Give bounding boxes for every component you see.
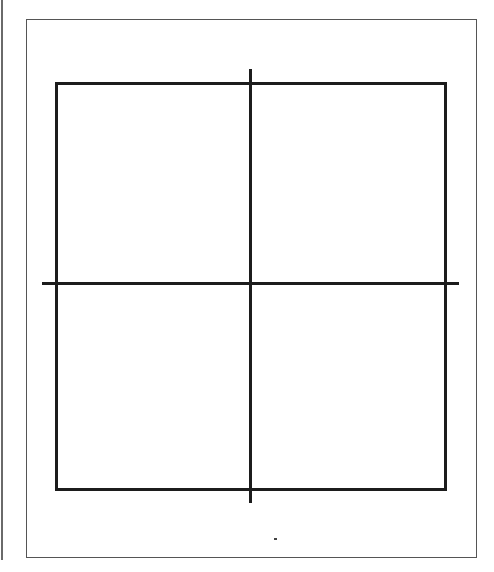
quadrant-top-left [58,85,251,285]
quadrant-bottom-right [254,288,444,488]
scan-speck [274,538,277,540]
quadrant-top-right [254,85,444,285]
quadrant-bottom-left [58,288,251,488]
vertical-axis-line [249,69,252,503]
left-margin-rule [1,0,3,560]
